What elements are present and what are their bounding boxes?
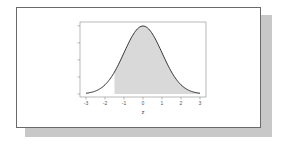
x-axis-ticks: -3-2-10123: [84, 97, 202, 106]
x-tick-label: 0: [142, 100, 145, 106]
x-tick-label: -3: [84, 100, 89, 106]
x-tick-label: -2: [103, 100, 108, 106]
shaded-area: [115, 26, 201, 94]
x-tick-label: -1: [122, 100, 127, 106]
x-tick-label: 3: [199, 100, 202, 106]
x-axis-label: z: [142, 109, 145, 115]
x-tick-label: 2: [180, 100, 183, 106]
x-tick-label: 1: [161, 100, 164, 106]
y-axis-ticks: [78, 26, 81, 94]
normal-distribution-chart: -3-2-10123 z: [0, 0, 282, 144]
